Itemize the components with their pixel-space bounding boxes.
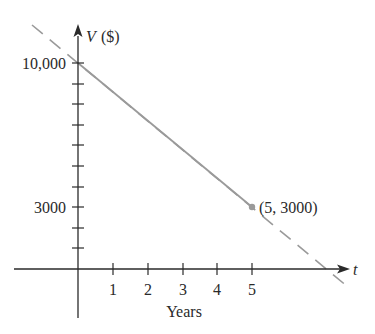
point-marker (249, 204, 255, 210)
y-tick-label-10000: 10,000 (22, 55, 66, 72)
value-line-solid (78, 63, 252, 207)
depreciation-line-chart: 1 2 3 4 5 t Years 10,000 3000 V ($) (5, … (0, 0, 375, 334)
x-tick-label-2: 2 (144, 281, 152, 298)
x-axis: 1 2 3 4 5 t Years (14, 261, 358, 320)
y-axis-unit-label: ($) (101, 28, 120, 46)
y-axis-variable-label: V (86, 28, 98, 45)
x-tick-label-1: 1 (109, 281, 117, 298)
x-axis-title: Years (166, 303, 202, 320)
x-axis-variable-label: t (353, 261, 358, 278)
y-tick-label-3000: 3000 (34, 199, 66, 216)
y-axis: 10,000 3000 V ($) (22, 24, 120, 318)
x-tick-label-3: 3 (179, 281, 187, 298)
x-tick-label-5: 5 (248, 281, 256, 298)
point-label: (5, 3000) (259, 199, 318, 217)
y-axis-arrow-icon (74, 24, 83, 37)
x-tick-label-4: 4 (213, 281, 221, 298)
